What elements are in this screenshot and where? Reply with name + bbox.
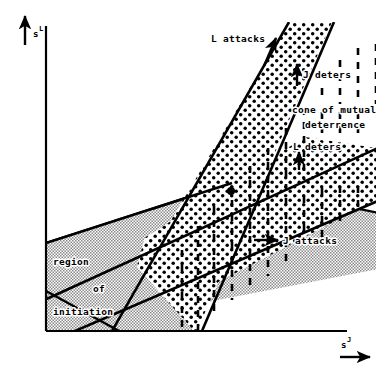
- y-axis-label-superscript: L: [39, 25, 43, 33]
- label-cone-of-mutual: cone of mutual: [292, 104, 376, 115]
- label-region: region: [53, 256, 89, 267]
- deterrence-diagram: s L s J L attacks J deters cone of mutua…: [0, 0, 386, 377]
- diagram-canvas: s L s J L attacks J deters cone of mutua…: [0, 0, 386, 377]
- label-j-deters: J deters: [303, 69, 351, 80]
- y-axis-label: s L: [33, 25, 43, 39]
- equilibrium-point: [227, 187, 235, 195]
- x-axis-label-superscript: J: [347, 336, 351, 344]
- x-axis-label: s J: [341, 336, 351, 350]
- label-initiation: initiation: [53, 306, 113, 317]
- label-l-deters: L deters: [293, 141, 341, 152]
- label-j-attacks: J attacks: [283, 235, 337, 246]
- label-deterrence: deterrence: [305, 119, 365, 130]
- y-axis-label-text: s: [33, 29, 38, 39]
- label-of: of: [93, 283, 105, 294]
- x-axis-label-text: s: [341, 340, 346, 350]
- label-l-attacks: L attacks: [211, 33, 265, 44]
